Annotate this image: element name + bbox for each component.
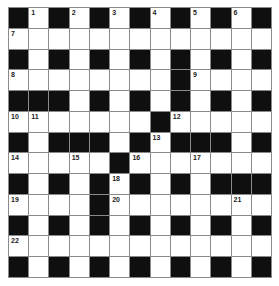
- answer-cell[interactable]: [70, 112, 89, 132]
- answer-cell[interactable]: [70, 236, 89, 256]
- answer-cell[interactable]: [90, 112, 109, 132]
- answer-cell[interactable]: [252, 153, 271, 173]
- answer-cell[interactable]: 16: [130, 153, 149, 173]
- answer-cell[interactable]: [211, 70, 230, 90]
- answer-cell[interactable]: 14: [9, 153, 28, 173]
- answer-cell[interactable]: [29, 195, 48, 215]
- answer-cell[interactable]: [151, 174, 170, 194]
- answer-cell[interactable]: 9: [191, 70, 210, 90]
- answer-cell[interactable]: [232, 70, 251, 90]
- answer-cell[interactable]: [49, 29, 68, 49]
- answer-cell[interactable]: [211, 153, 230, 173]
- answer-cell[interactable]: [151, 153, 170, 173]
- answer-cell[interactable]: [252, 29, 271, 49]
- answer-cell[interactable]: [171, 29, 190, 49]
- answer-cell[interactable]: 13: [151, 133, 170, 153]
- answer-cell[interactable]: [130, 236, 149, 256]
- answer-cell[interactable]: [90, 29, 109, 49]
- answer-cell[interactable]: [232, 91, 251, 111]
- answer-cell[interactable]: [49, 70, 68, 90]
- answer-cell[interactable]: 6: [232, 8, 251, 28]
- answer-cell[interactable]: [49, 112, 68, 132]
- answer-cell[interactable]: [232, 29, 251, 49]
- answer-cell[interactable]: [191, 174, 210, 194]
- answer-cell[interactable]: [110, 50, 129, 70]
- answer-cell[interactable]: [232, 112, 251, 132]
- answer-cell[interactable]: [232, 216, 251, 236]
- answer-cell[interactable]: 1: [29, 8, 48, 28]
- answer-cell[interactable]: [110, 112, 129, 132]
- answer-cell[interactable]: [49, 195, 68, 215]
- answer-cell[interactable]: [70, 174, 89, 194]
- answer-cell[interactable]: 8: [9, 70, 28, 90]
- answer-cell[interactable]: [191, 236, 210, 256]
- answer-cell[interactable]: [110, 216, 129, 236]
- answer-cell[interactable]: [29, 236, 48, 256]
- answer-cell[interactable]: 11: [29, 112, 48, 132]
- answer-cell[interactable]: [110, 133, 129, 153]
- answer-cell[interactable]: [130, 70, 149, 90]
- answer-cell[interactable]: [130, 112, 149, 132]
- answer-cell[interactable]: 17: [191, 153, 210, 173]
- answer-cell[interactable]: [171, 153, 190, 173]
- answer-cell[interactable]: [232, 133, 251, 153]
- answer-cell[interactable]: [151, 50, 170, 70]
- answer-cell[interactable]: 22: [9, 236, 28, 256]
- answer-cell[interactable]: [211, 236, 230, 256]
- answer-cell[interactable]: [29, 216, 48, 236]
- answer-cell[interactable]: [29, 50, 48, 70]
- answer-cell[interactable]: [252, 70, 271, 90]
- answer-cell[interactable]: [151, 216, 170, 236]
- answer-cell[interactable]: [70, 50, 89, 70]
- answer-cell[interactable]: [232, 153, 251, 173]
- answer-cell[interactable]: [232, 257, 251, 277]
- answer-cell[interactable]: [151, 70, 170, 90]
- answer-cell[interactable]: 19: [9, 195, 28, 215]
- answer-cell[interactable]: 2: [70, 8, 89, 28]
- answer-cell[interactable]: [151, 91, 170, 111]
- answer-cell[interactable]: [151, 29, 170, 49]
- answer-cell[interactable]: [29, 133, 48, 153]
- answer-cell[interactable]: 3: [110, 8, 129, 28]
- answer-cell[interactable]: [171, 236, 190, 256]
- answer-cell[interactable]: [90, 236, 109, 256]
- answer-cell[interactable]: [90, 70, 109, 90]
- answer-cell[interactable]: 21: [232, 195, 251, 215]
- answer-cell[interactable]: [252, 236, 271, 256]
- answer-cell[interactable]: 5: [191, 8, 210, 28]
- answer-cell[interactable]: 18: [110, 174, 129, 194]
- answer-cell[interactable]: [211, 195, 230, 215]
- answer-cell[interactable]: [110, 91, 129, 111]
- answer-cell[interactable]: [110, 236, 129, 256]
- answer-cell[interactable]: [29, 153, 48, 173]
- answer-cell[interactable]: [49, 153, 68, 173]
- answer-cell[interactable]: [49, 236, 68, 256]
- answer-cell[interactable]: 20: [110, 195, 129, 215]
- answer-cell[interactable]: [252, 195, 271, 215]
- answer-cell[interactable]: [110, 29, 129, 49]
- answer-cell[interactable]: [191, 195, 210, 215]
- answer-cell[interactable]: [29, 174, 48, 194]
- answer-cell[interactable]: [191, 29, 210, 49]
- answer-cell[interactable]: [151, 257, 170, 277]
- answer-cell[interactable]: [110, 70, 129, 90]
- answer-cell[interactable]: [191, 216, 210, 236]
- answer-cell[interactable]: 10: [9, 112, 28, 132]
- answer-cell[interactable]: [232, 50, 251, 70]
- answer-cell[interactable]: [29, 29, 48, 49]
- answer-cell[interactable]: [70, 195, 89, 215]
- answer-cell[interactable]: [171, 195, 190, 215]
- answer-cell[interactable]: [70, 70, 89, 90]
- answer-cell[interactable]: [70, 29, 89, 49]
- answer-cell[interactable]: [130, 195, 149, 215]
- answer-cell[interactable]: [90, 153, 109, 173]
- answer-cell[interactable]: [191, 91, 210, 111]
- answer-cell[interactable]: [29, 257, 48, 277]
- answer-cell[interactable]: [232, 236, 251, 256]
- answer-cell[interactable]: [191, 50, 210, 70]
- answer-cell[interactable]: 12: [171, 112, 190, 132]
- answer-cell[interactable]: [191, 112, 210, 132]
- answer-cell[interactable]: [151, 236, 170, 256]
- answer-cell[interactable]: 15: [70, 153, 89, 173]
- answer-cell[interactable]: [211, 29, 230, 49]
